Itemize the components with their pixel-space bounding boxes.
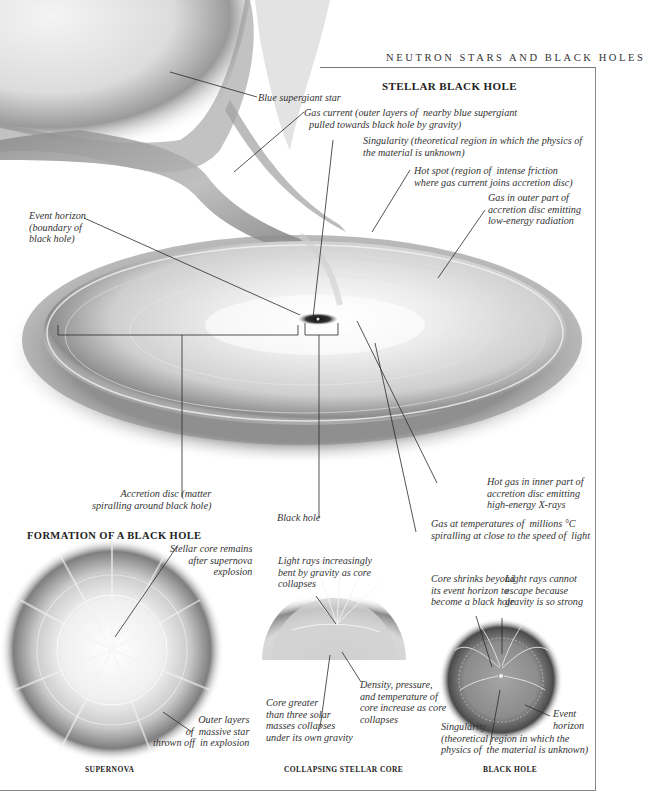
label-gas-temperatures: Gas at temperatures of millions °C spira… [431, 518, 590, 541]
label-light-cannot-escape: Light rays cannot escape because gravity… [505, 573, 583, 608]
label-gas-outer: Gas in outer part of accretion disc emit… [488, 192, 581, 227]
label-density-pressure: Density, pressure, and temperature of co… [360, 679, 446, 725]
label-hot-spot: Hot spot (region of intense friction whe… [414, 165, 573, 188]
caption-supernova: SUPERNOVA [85, 765, 134, 774]
label-singularity-small: Singularity (theoretical region in which… [441, 721, 588, 756]
label-outer-layers: Outer layers of massive star thrown off … [153, 714, 249, 749]
running-head: NEUTRON STARS AND BLACK HOLES [386, 52, 646, 63]
frame-top-rule [320, 67, 596, 68]
label-blue-supergiant: Blue supergiant star [258, 92, 341, 104]
caption-collapsing-core: COLLAPSING STELLAR CORE [284, 765, 403, 774]
label-stellar-core-remains: Stellar core remains after supernova exp… [170, 543, 252, 578]
caption-black-hole: BLACK HOLE [483, 765, 537, 774]
frame-right-rule [595, 67, 596, 791]
label-hot-gas-inner: Hot gas in inner part of accretion disc … [487, 476, 584, 511]
stellar-black-hole-title: STELLAR BLACK HOLE [382, 80, 517, 92]
accretion-disc-illustration [5, 235, 595, 465]
label-core-greater: Core greater than three solar masses col… [266, 697, 353, 743]
label-black-hole: Black hole [277, 512, 320, 524]
label-singularity: Singularity (theoretical region in which… [363, 135, 582, 158]
frame-bottom-rule [0, 790, 596, 791]
label-light-rays-bent: Light rays increasingly bent by gravity … [278, 555, 372, 590]
formation-title: FORMATION OF A BLACK HOLE [27, 530, 202, 541]
label-core-shrinks: Core shrinks beyond its event horizon to… [431, 573, 515, 608]
label-gas-current: Gas current (outer layers of nearby blue… [304, 107, 517, 130]
label-event-horizon: Event horizon (boundary of black hole) [29, 210, 86, 245]
label-accretion-disc: Accretion disc (matter spiralling around… [92, 488, 211, 511]
